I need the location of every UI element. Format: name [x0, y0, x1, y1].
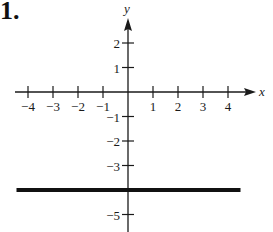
- x-tick-label: 3: [200, 99, 207, 114]
- coordinate-plane: xy−4−3−2−1123421−1−2−3−5: [0, 0, 273, 232]
- y-axis-label: y: [122, 1, 130, 16]
- y-tick-label: 1: [114, 61, 121, 76]
- y-tick-label: −1: [106, 110, 120, 125]
- y-tick-label: 2: [114, 36, 121, 51]
- x-tick-label: −3: [46, 99, 60, 114]
- x-tick-label: 4: [225, 99, 232, 114]
- x-axis-label: x: [258, 84, 265, 99]
- y-tick-label: −2: [106, 134, 120, 149]
- x-tick-label: −2: [71, 99, 85, 114]
- y-tick-label: −3: [106, 159, 120, 174]
- x-tick-label: 1: [150, 99, 157, 114]
- y-tick-label: −5: [106, 208, 120, 223]
- x-tick-label: 2: [175, 99, 182, 114]
- x-tick-label: −4: [21, 99, 35, 114]
- axes: [15, 18, 256, 232]
